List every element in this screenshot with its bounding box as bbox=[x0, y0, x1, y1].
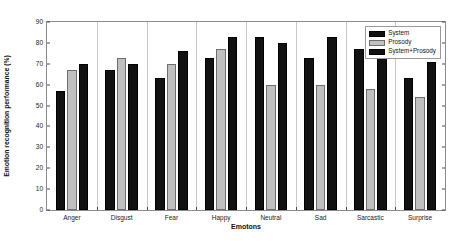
y-tick-label: 60 bbox=[36, 81, 43, 88]
bar bbox=[167, 64, 177, 210]
y-tick-label: 20 bbox=[36, 165, 43, 172]
y-tick-mark bbox=[442, 84, 445, 85]
x-tick-label: Sarcastic bbox=[357, 215, 384, 222]
y-tick-mark bbox=[442, 22, 445, 23]
y-tick-mark bbox=[47, 105, 50, 106]
x-tick-mark bbox=[246, 207, 247, 210]
x-tick-mark bbox=[346, 207, 347, 210]
legend-swatch bbox=[369, 31, 385, 37]
figure: Emotion recognition performance (%) 0102… bbox=[0, 0, 462, 241]
plot-frame: 0102030405060708090AngerDisgustFearHappy… bbox=[46, 21, 446, 211]
legend-swatch bbox=[369, 49, 385, 55]
legend-label: System+Prosody bbox=[388, 48, 436, 54]
x-tick-label: Anger bbox=[63, 215, 80, 222]
chart-legend: SystemProsodySystem+Prosody bbox=[365, 26, 441, 59]
x-tick-mark bbox=[147, 207, 148, 210]
grid-line bbox=[246, 22, 247, 210]
x-tick-label: Surprise bbox=[408, 215, 432, 222]
y-tick-mark bbox=[442, 126, 445, 127]
x-tick-mark bbox=[97, 207, 98, 210]
bar bbox=[404, 78, 414, 210]
legend-item: System bbox=[369, 29, 436, 38]
legend-item: System+Prosody bbox=[369, 47, 436, 56]
y-tick-label: 10 bbox=[36, 186, 43, 193]
bar bbox=[354, 49, 364, 210]
bar bbox=[105, 70, 115, 210]
bar bbox=[155, 78, 165, 210]
grid-line bbox=[147, 22, 148, 210]
grid-line bbox=[296, 22, 297, 210]
y-tick-mark bbox=[442, 63, 445, 64]
y-tick-mark bbox=[47, 168, 50, 169]
legend-label: System bbox=[388, 30, 409, 36]
y-tick-mark bbox=[47, 84, 50, 85]
y-tick-label: 30 bbox=[36, 144, 43, 151]
bar bbox=[415, 97, 425, 210]
grid-line bbox=[346, 22, 347, 210]
bar bbox=[178, 51, 188, 210]
bar bbox=[316, 85, 326, 210]
legend-swatch bbox=[369, 40, 385, 46]
y-tick-mark bbox=[442, 42, 445, 43]
x-tick-label: Neutral bbox=[260, 215, 281, 222]
bar bbox=[128, 64, 138, 210]
x-tick-mark bbox=[196, 207, 197, 210]
y-tick-label: 70 bbox=[36, 61, 43, 68]
bar bbox=[366, 89, 376, 210]
bar bbox=[278, 43, 288, 210]
bar bbox=[56, 91, 66, 210]
y-tick-label: 80 bbox=[36, 40, 43, 47]
y-tick-label: 0 bbox=[39, 207, 43, 214]
bar bbox=[427, 62, 437, 210]
y-tick-label: 40 bbox=[36, 123, 43, 130]
y-tick-mark bbox=[47, 126, 50, 127]
bar bbox=[304, 58, 314, 210]
x-tick-mark bbox=[395, 207, 396, 210]
y-tick-label: 50 bbox=[36, 102, 43, 109]
bar bbox=[117, 58, 127, 210]
bar bbox=[216, 49, 226, 210]
bar bbox=[79, 64, 89, 210]
y-tick-mark bbox=[442, 189, 445, 190]
x-tick-mark bbox=[296, 207, 297, 210]
y-tick-mark bbox=[47, 22, 50, 23]
bar bbox=[377, 37, 387, 210]
grid-line bbox=[196, 22, 197, 210]
grid-line bbox=[97, 22, 98, 210]
y-tick-mark bbox=[442, 105, 445, 106]
x-tick-label: Sad bbox=[315, 215, 327, 222]
bar bbox=[327, 37, 337, 210]
y-tick-mark bbox=[47, 63, 50, 64]
bar bbox=[255, 37, 265, 210]
y-axis-label: Emotion recognition performance (%) bbox=[3, 55, 10, 177]
y-tick-mark bbox=[442, 168, 445, 169]
legend-item: Prosody bbox=[369, 38, 436, 47]
y-tick-mark bbox=[47, 147, 50, 148]
y-tick-mark bbox=[47, 42, 50, 43]
y-tick-label: 90 bbox=[36, 19, 43, 26]
y-tick-mark bbox=[442, 210, 445, 211]
bar bbox=[67, 70, 77, 210]
y-tick-mark bbox=[47, 210, 50, 211]
x-tick-label: Disgust bbox=[111, 215, 133, 222]
bar bbox=[205, 58, 215, 210]
legend-label: Prosody bbox=[388, 39, 411, 45]
x-tick-label: Fear bbox=[165, 215, 178, 222]
y-tick-mark bbox=[442, 147, 445, 148]
bar bbox=[266, 85, 276, 210]
bar bbox=[228, 37, 238, 210]
x-axis-label: Emotons bbox=[231, 223, 261, 230]
x-tick-label: Happy bbox=[212, 215, 231, 222]
y-tick-mark bbox=[47, 189, 50, 190]
